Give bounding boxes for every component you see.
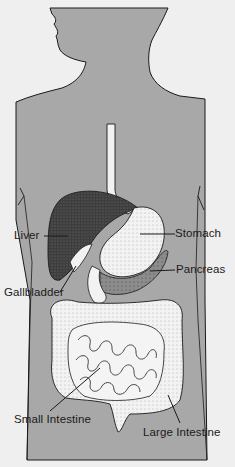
- label-pancreas: Pancreas: [176, 264, 225, 276]
- digestive-system-diagram: Liver Stomach Pancreas Gallbladder Small…: [0, 0, 235, 467]
- label-large-intestine: Large Intestine: [143, 427, 221, 439]
- label-gallbladder: Gallbladder: [4, 287, 64, 299]
- small-intestine-organ: [68, 322, 164, 401]
- label-stomach: Stomach: [175, 228, 221, 240]
- label-small-intestine: Small Intestine: [14, 414, 91, 426]
- label-liver: Liver: [14, 230, 39, 242]
